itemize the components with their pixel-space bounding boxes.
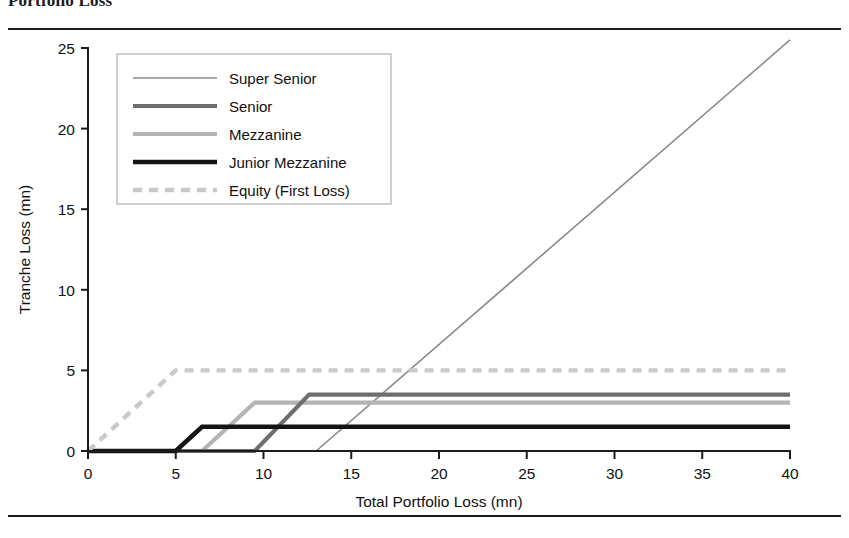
legend-label-equity-first-loss: Equity (First Loss) — [229, 182, 350, 199]
plot-area-wrapper: 05101520250510152025303540Total Portfoli… — [0, 32, 849, 512]
tranche-loss-chart: 05101520250510152025303540Total Portfoli… — [0, 32, 849, 512]
y-tick-label: 0 — [66, 443, 75, 460]
y-tick-label: 20 — [58, 121, 76, 138]
x-tick-label: 20 — [430, 465, 448, 482]
figure-container: Portfolio Loss 0510152025051015202530354… — [0, 0, 849, 538]
x-tick-label: 35 — [694, 465, 711, 482]
x-tick-label: 5 — [171, 465, 180, 482]
y-tick-label: 25 — [58, 40, 75, 57]
top-rule — [8, 28, 841, 30]
x-tick-label: 10 — [255, 465, 273, 482]
x-tick-label: 15 — [343, 465, 360, 482]
y-tick-label: 15 — [58, 201, 75, 218]
legend-label-junior-mezzanine: Junior Mezzanine — [229, 154, 347, 171]
x-tick-label: 0 — [84, 465, 93, 482]
y-axis-title: Tranche Loss (mn) — [16, 185, 33, 315]
legend-label-super-senior: Super Senior — [229, 70, 317, 87]
y-tick-label: 5 — [66, 362, 75, 379]
legend-label-senior: Senior — [229, 98, 272, 115]
x-tick-label: 40 — [781, 465, 799, 482]
series-line-equity-first-loss — [88, 370, 790, 451]
x-tick-label: 25 — [518, 465, 535, 482]
chart-legend: Super SeniorSeniorMezzanineJunior Mezzan… — [117, 54, 391, 204]
bottom-rule — [8, 515, 841, 517]
x-axis-title: Total Portfolio Loss (mn) — [355, 493, 522, 510]
series-line-junior-mezzanine — [88, 427, 790, 451]
y-tick-label: 10 — [58, 282, 76, 299]
legend-label-mezzanine: Mezzanine — [229, 126, 302, 143]
x-tick-label: 30 — [606, 465, 624, 482]
figure-caption: Portfolio Loss — [8, 0, 112, 11]
